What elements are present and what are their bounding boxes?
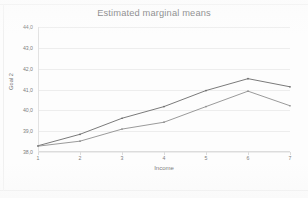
y-tick-label: 43,0: [23, 45, 33, 51]
x-tick-mark: [164, 152, 165, 155]
x-tick-label: 1: [37, 155, 40, 161]
page-border-left: [3, 4, 4, 191]
x-tick-mark: [122, 152, 123, 155]
data-point-marker: [205, 106, 207, 108]
data-point-marker: [121, 128, 123, 130]
data-point-marker: [163, 121, 165, 123]
chart-page: Estimated marginal means Goal 2 Income 4…: [0, 0, 308, 198]
page-border-top: [0, 4, 308, 5]
data-point-marker: [205, 90, 207, 92]
x-tick-mark: [38, 152, 39, 155]
x-tick-mark: [206, 152, 207, 155]
x-tick-mark: [248, 152, 249, 155]
data-series-group: [38, 27, 290, 152]
data-point-marker: [247, 90, 249, 92]
y-axis-title: Goal 2: [8, 73, 14, 90]
y-tick-label: 41,0: [23, 87, 33, 93]
y-tick-label: 44,0: [23, 24, 33, 30]
data-point-marker: [289, 86, 291, 88]
data-point-marker: [121, 117, 123, 119]
plot-area: 44,043,042,041,040,039,038,0 1234567: [38, 27, 290, 152]
x-tick-label: 2: [79, 155, 82, 161]
y-tick-label: 38,0: [23, 149, 33, 155]
data-point-marker: [79, 133, 81, 135]
x-tick-label: 4: [163, 155, 166, 161]
y-tick-label: 40,0: [23, 107, 33, 113]
x-axis-title: Income: [38, 165, 290, 171]
chart-title: Estimated marginal means: [0, 8, 308, 18]
series-line: [38, 79, 290, 146]
y-tick-label: 42,0: [23, 66, 33, 72]
data-point-marker: [37, 145, 39, 147]
y-tick-label: 39,0: [23, 128, 33, 134]
data-point-marker: [163, 106, 165, 108]
x-tick-mark: [80, 152, 81, 155]
x-tick-label: 7: [289, 155, 292, 161]
series-line: [38, 91, 290, 146]
x-tick-label: 5: [205, 155, 208, 161]
page-border-bottom: [0, 190, 308, 191]
data-point-marker: [79, 140, 81, 142]
data-point-marker: [247, 78, 249, 80]
data-point-marker: [289, 105, 291, 107]
x-tick-label: 6: [247, 155, 250, 161]
x-tick-mark: [290, 152, 291, 155]
x-tick-label: 3: [121, 155, 124, 161]
